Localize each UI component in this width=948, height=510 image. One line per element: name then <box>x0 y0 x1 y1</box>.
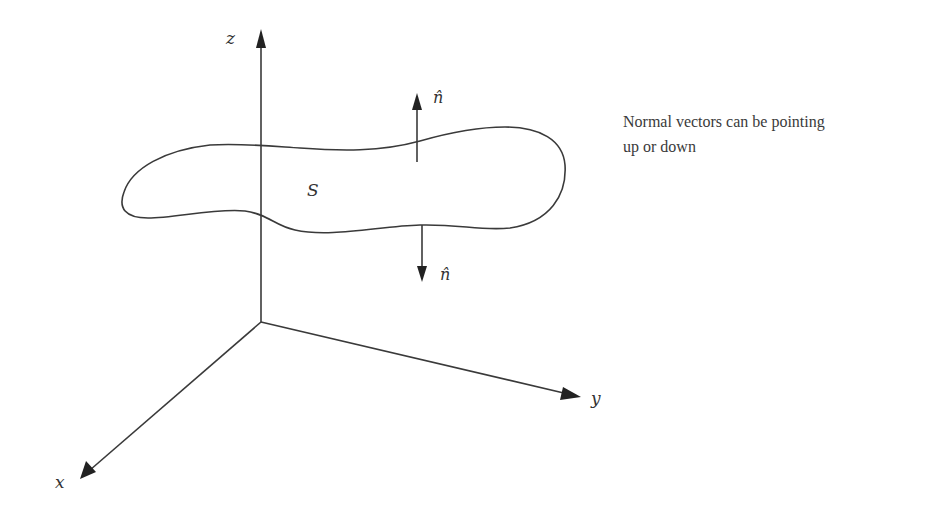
downward-normal-vector <box>417 225 427 282</box>
x-axis <box>80 322 261 479</box>
annotation-line-1: Normal vectors can be pointing <box>623 113 825 131</box>
upward-normal-label: n̂ <box>433 88 443 107</box>
y-axis <box>261 322 581 400</box>
upward-normal-vector <box>412 93 422 162</box>
z-axis-label: z <box>225 28 236 48</box>
up-arrowhead-icon <box>412 93 422 110</box>
surface-label: S <box>307 180 319 200</box>
z-axis-arrowhead-icon <box>256 29 266 48</box>
z-axis <box>256 29 266 322</box>
surface-normal-diagram: z y x S n̂ n̂ Normal vectors can be poin… <box>0 0 948 510</box>
y-axis-label: y <box>590 388 601 408</box>
surface-s-outline <box>122 127 565 233</box>
x-axis-arrowhead-icon <box>80 461 96 479</box>
x-axis-label: x <box>55 472 65 492</box>
down-arrowhead-icon <box>417 266 427 282</box>
downward-normal-label: n̂ <box>440 265 450 284</box>
annotation-line-2: up or down <box>623 138 696 156</box>
y-axis-arrowhead-icon <box>560 387 581 400</box>
